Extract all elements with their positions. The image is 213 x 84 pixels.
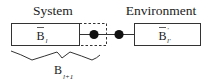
- site-dot-2: [114, 30, 123, 39]
- system-heading: System: [33, 3, 73, 18]
- system-block-label: B l: [37, 28, 48, 46]
- system-block-symbol: B: [37, 29, 45, 43]
- enlarged-block-brace: [11, 51, 100, 60]
- environment-block-label: B ' l': [159, 26, 171, 45]
- site-dot-1: [89, 30, 98, 39]
- environment-block-symbol: B: [159, 29, 167, 43]
- environment-block-prime: ': [167, 26, 169, 34]
- enlarged-block-subscript: l+1: [63, 73, 73, 81]
- system-block-subscript: l: [46, 37, 48, 45]
- enlarged-block-label: B l+1: [54, 63, 73, 81]
- enlarged-block-symbol: B: [54, 63, 62, 77]
- environment-block-subscript: l': [167, 37, 171, 45]
- dmrg-superblock-diagram: System Environment B l B ' l' B l+1: [0, 0, 213, 84]
- environment-heading: Environment: [126, 3, 197, 18]
